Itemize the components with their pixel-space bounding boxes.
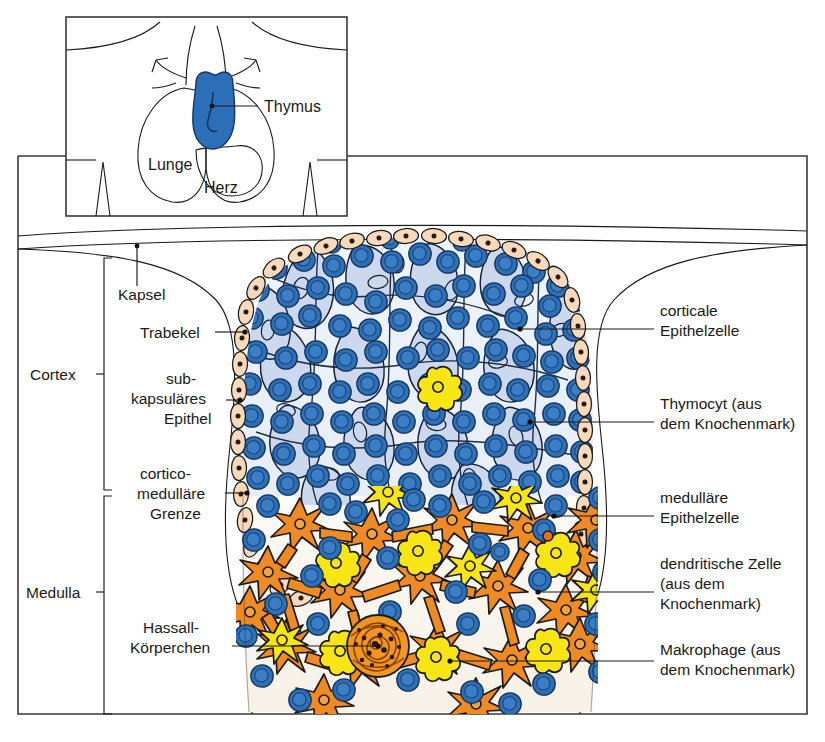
- bracket-label-cortex: Cortex: [30, 366, 76, 383]
- cortex-content: [239, 231, 594, 529]
- label-medullaere-epithelzelle-2: Epithelzelle: [660, 509, 739, 526]
- figure-root: Thymus Lunge Herz: [0, 0, 825, 742]
- label-subkapsulaeres-1: sub-: [166, 370, 196, 387]
- left-brackets: Cortex Medulla: [26, 258, 112, 714]
- label-subkapsulaeres-2: kapsuläres: [131, 390, 206, 407]
- label-cortico-3: Grenze: [150, 505, 201, 522]
- label-kapsel: Kapsel: [118, 286, 165, 303]
- label-trabekel: Trabekel: [140, 324, 200, 341]
- inset-label-lunge: Lunge: [148, 156, 193, 173]
- label-dendritische-zelle-3: Knochenmark): [660, 595, 761, 612]
- bracket-label-medulla: Medulla: [26, 584, 81, 601]
- label-thymocyt-1: Thymocyt (aus: [660, 395, 762, 412]
- inset-thorax-panel: Thymus Lunge Herz: [66, 17, 347, 216]
- label-medullaere-epithelzelle-1: medulläre: [660, 489, 728, 506]
- label-hassall-1: Hassall-: [143, 619, 199, 636]
- label-corticale-epithelzelle-2: Epithelzelle: [660, 322, 739, 339]
- label-dendritische-zelle-1: dendritische Zelle: [660, 555, 781, 572]
- label-hassall-2: Körperchen: [130, 639, 210, 656]
- inset-label-thymus: Thymus: [264, 98, 321, 115]
- label-dendritische-zelle-2: (aus dem: [660, 575, 725, 592]
- label-cortico-1: cortico-: [140, 465, 191, 482]
- label-makrophage-2: dem Knochenmark): [660, 661, 795, 678]
- label-corticale-epithelzelle-1: corticale: [660, 302, 718, 319]
- macrophage-marker: [543, 531, 553, 541]
- label-thymocyt-2: dem Knochenmark): [660, 415, 795, 432]
- label-cortico-2: medulläre: [137, 485, 205, 502]
- thymus-shape: [193, 72, 235, 149]
- label-subkapsulaeres-3: Epithel: [164, 410, 211, 427]
- inset-label-herz: Herz: [204, 179, 238, 196]
- label-makrophage-1: Makrophage (aus: [660, 641, 781, 658]
